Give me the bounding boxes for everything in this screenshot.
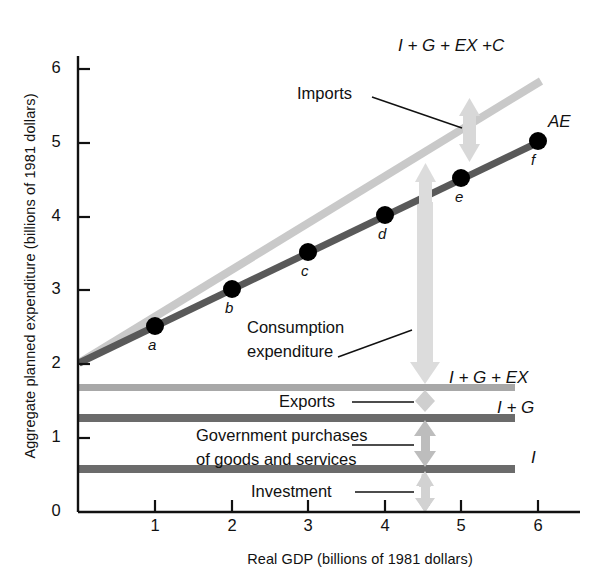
annotation-investment: Investment bbox=[251, 481, 332, 501]
aggregate-expenditure-chart: Aggregate planned expenditure (billions … bbox=[0, 0, 607, 588]
y-tick-label-5: 5 bbox=[44, 132, 68, 151]
point-label-b: b bbox=[225, 299, 233, 316]
data-point-d bbox=[376, 206, 394, 224]
x-tick-label-4: 4 bbox=[373, 516, 397, 535]
x-tick-label-5: 5 bbox=[449, 516, 473, 535]
x-tick-label-6: 6 bbox=[526, 516, 550, 535]
series-label-ae: AE bbox=[548, 112, 571, 132]
annotation-consumption-line2: expenditure bbox=[247, 341, 333, 361]
annotation-government-line2: of goods and services bbox=[196, 449, 357, 469]
arrow-exports bbox=[415, 390, 435, 412]
point-label-e: e bbox=[455, 188, 463, 205]
y-tick-label-3: 3 bbox=[44, 279, 68, 298]
series-label-i-g-ex-c: I + G + EX +C bbox=[398, 36, 504, 56]
annotation-imports: Imports bbox=[297, 83, 352, 103]
y-tick-label-2: 2 bbox=[44, 353, 68, 372]
x-tick-label-3: 3 bbox=[296, 516, 320, 535]
arrow-government-purchases bbox=[414, 420, 436, 467]
arrow-consumption-expenditure bbox=[410, 202, 440, 384]
point-label-a: a bbox=[148, 336, 156, 353]
leader-line-imports bbox=[372, 97, 462, 128]
point-label-c: c bbox=[301, 262, 309, 279]
arrow-investment bbox=[415, 471, 435, 513]
annotation-government-line1: Government purchases bbox=[196, 425, 368, 445]
annotation-consumption-line1: Consumption bbox=[247, 317, 344, 337]
x-tick-label-2: 2 bbox=[220, 516, 244, 535]
x-axis-ticks bbox=[155, 500, 538, 512]
band-i-g bbox=[78, 414, 515, 422]
y-tick-label-6: 6 bbox=[44, 58, 68, 77]
data-point-e bbox=[452, 169, 470, 187]
x-axis-title: Real GDP (billions of 1981 dollars) bbox=[180, 551, 540, 567]
x-tick-label-1: 1 bbox=[143, 516, 167, 535]
y-tick-label-1: 1 bbox=[44, 427, 68, 446]
y-axis-title: Aggregate planned expenditure (billions … bbox=[22, 41, 38, 511]
y-tick-label-0: 0 bbox=[44, 501, 68, 520]
annotation-exports: Exports bbox=[279, 391, 335, 411]
data-point-a bbox=[146, 317, 164, 335]
series-label-i-g: I + G bbox=[497, 398, 534, 418]
series-label-i: I bbox=[531, 448, 536, 468]
point-label-d: d bbox=[378, 225, 386, 242]
leader-line-consumption bbox=[338, 330, 412, 357]
data-point-f bbox=[529, 132, 547, 150]
data-point-b bbox=[223, 280, 241, 298]
point-label-f: f bbox=[531, 151, 535, 168]
series-label-i-g-ex: I + G + EX bbox=[449, 368, 528, 388]
data-point-c bbox=[299, 243, 317, 261]
y-axis-ticks bbox=[78, 69, 90, 438]
y-tick-label-4: 4 bbox=[44, 206, 68, 225]
